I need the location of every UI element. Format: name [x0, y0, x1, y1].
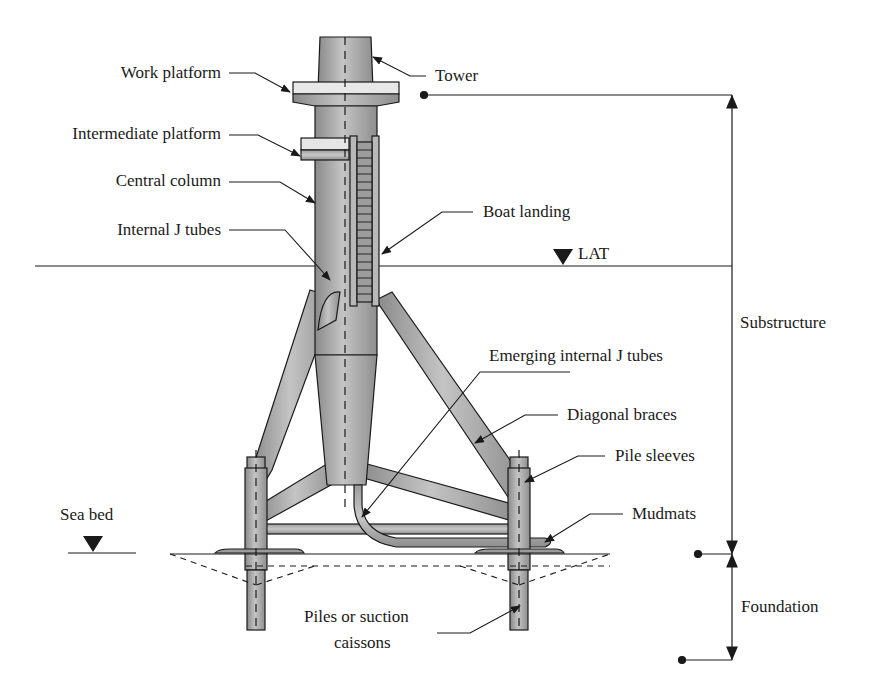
- label-internal-j-tubes: Internal J tubes: [117, 220, 221, 240]
- label-diagonal-braces: Diagonal braces: [567, 405, 677, 425]
- label-pile-sleeves: Pile sleeves: [615, 446, 695, 466]
- label-boat-landing: Boat landing: [483, 202, 570, 222]
- label-lat: LAT: [578, 244, 609, 264]
- tripod-diagram: [0, 0, 881, 696]
- label-foundation: Foundation: [741, 597, 818, 617]
- label-emerging-internal-j-tubes: Emerging internal J tubes: [489, 346, 663, 366]
- intermediate-platform-shape: [301, 138, 349, 150]
- boat-landing-shape: [350, 136, 357, 306]
- label-central-column: Central column: [116, 171, 221, 191]
- lat-triangle-icon: [553, 249, 573, 265]
- central-column-structure: [293, 37, 399, 485]
- label-intermediate-platform: Intermediate platform: [72, 124, 221, 144]
- label-sea-bed: Sea bed: [60, 505, 113, 525]
- label-piles-line1: Piles or suction: [304, 607, 409, 627]
- seabed-triangle-icon: [83, 536, 103, 552]
- pile-left: [215, 457, 304, 630]
- label-substructure: Substructure: [740, 313, 826, 333]
- work-platform-shape: [293, 82, 399, 94]
- dimension-lines: [421, 92, 738, 664]
- label-work-platform: Work platform: [121, 63, 221, 83]
- label-tower: Tower: [435, 66, 478, 86]
- diagonal-braces: [252, 290, 524, 522]
- soil-failure-wedges: [170, 554, 610, 585]
- label-mudmats: Mudmats: [632, 504, 696, 524]
- label-piles-line2: caissons: [334, 633, 391, 653]
